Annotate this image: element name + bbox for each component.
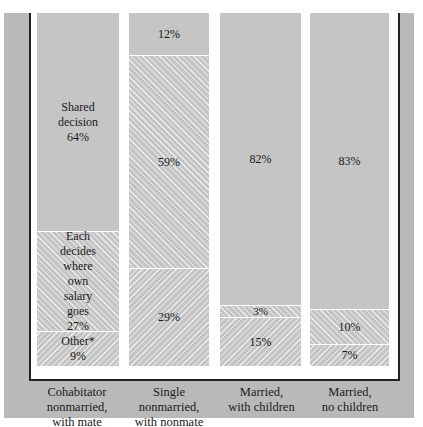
category-label-married-no-children: Married, no children [304,385,396,415]
segment-shared-decision: 82% [220,13,301,305]
category-label-cohabitator: Cohabitator nonmarried, with mate [29,385,125,427]
bar-married-no-children: 83% 10% 7% [310,13,389,366]
plot-area: Shared decision 64% Each decides where o… [29,13,400,381]
segment-each-decides: 59% [129,55,209,268]
category-label-single: Single nonmarried, with nonmate [119,385,219,427]
segment-other: 15% [220,317,301,366]
segment-other: Other* 9% [37,331,119,366]
segment-each-decides: Each decides where own salary goes 27% [37,231,119,331]
segment-other: 7% [310,344,389,366]
bar-cohabitator: Shared decision 64% Each decides where o… [37,13,119,366]
segment-each-decides: 10% [310,309,389,344]
segment-each-decides: 3% [220,305,301,317]
chart-frame: Shared decision 64% Each decides where o… [4,13,414,418]
bar-married-children: 82% 3% 15% [220,13,301,366]
category-label-married-children: Married, with children [214,385,309,415]
segment-shared-decision: 12% [129,13,209,55]
segment-other: 29% [129,268,209,366]
bar-single: 12% 59% 29% [129,13,209,366]
segment-shared-decision: Shared decision 64% [37,13,119,231]
segment-shared-decision: 83% [310,13,389,309]
